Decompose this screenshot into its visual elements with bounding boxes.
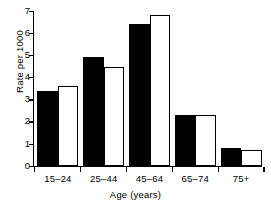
x-axis-category-label: 45–64 (136, 173, 163, 184)
x-axis-category-label: 75+ (233, 173, 250, 184)
x-axis-category-label: 15–24 (44, 173, 71, 184)
bar (129, 24, 150, 165)
bar (175, 115, 196, 166)
x-axis-line (33, 166, 262, 167)
bar (221, 148, 242, 166)
x-axis-tick-mark (34, 167, 35, 172)
bar (150, 15, 171, 165)
y-axis-tick-label: 4 (25, 73, 30, 83)
y-axis-tick-label: 1 (25, 139, 30, 149)
x-axis-tick-mark (126, 167, 127, 172)
x-axis-tick-mark (218, 167, 219, 172)
bar (58, 86, 79, 166)
x-axis-category-label: 65–74 (182, 173, 209, 184)
bar (241, 150, 262, 165)
y-axis-tick-label: 5 (25, 50, 30, 60)
x-axis-title: Age (years) (0, 189, 271, 200)
y-axis-title: Rate per 1000 (14, 2, 25, 122)
y-axis-tick-label: 0 (25, 161, 30, 171)
bar (195, 115, 216, 166)
x-axis-tick-mark (263, 167, 264, 172)
y-axis-tick-label: 6 (25, 28, 30, 38)
y-axis-tick-label: 7 (25, 6, 30, 16)
bar (83, 57, 104, 165)
x-axis-tick-mark (172, 167, 173, 172)
x-axis-category-label: 25–44 (90, 173, 117, 184)
bar-chart: Rate per 1000 01234567 15–2425–4445–6465… (0, 0, 271, 203)
bar (37, 91, 58, 166)
plot-area: 01234567 (33, 11, 262, 167)
bar (104, 67, 125, 165)
y-axis-tick-label: 3 (25, 95, 30, 105)
x-axis-tick-mark (80, 167, 81, 172)
y-axis-tick-label: 2 (25, 117, 30, 127)
